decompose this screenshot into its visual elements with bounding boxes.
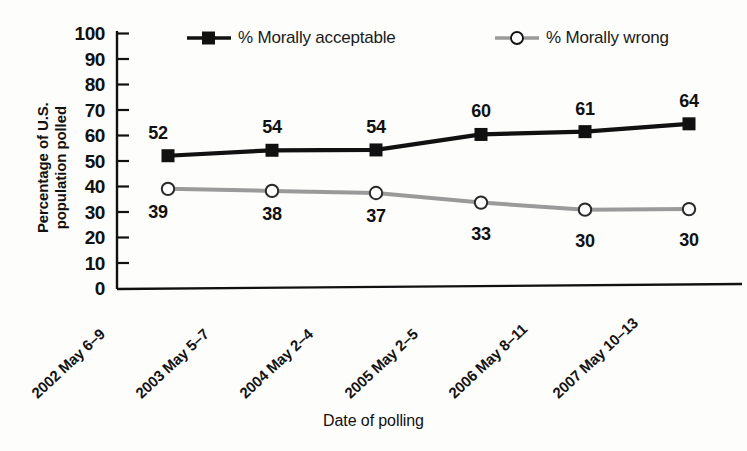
data-point-marker-circle[interactable] <box>370 187 382 199</box>
legend-item-morally-acceptable[interactable]: % Morally acceptable <box>186 28 396 48</box>
data-point-marker-circle[interactable] <box>162 183 174 195</box>
legend-label-morally-wrong: % Morally wrong <box>546 28 669 48</box>
series-morally-wrong <box>162 183 695 216</box>
value-label-acceptable-4: 61 <box>565 100 605 118</box>
open-circle-icon <box>494 29 540 47</box>
value-label-wrong-4: 30 <box>565 232 605 250</box>
data-point-marker-square[interactable] <box>683 117 696 130</box>
value-label-wrong-0: 39 <box>138 203 178 221</box>
series-line <box>168 124 689 156</box>
chart-page: Percentage of U.S. population polled 100… <box>0 0 747 451</box>
value-label-acceptable-3: 60 <box>461 102 501 120</box>
value-label-acceptable-1: 54 <box>252 118 292 136</box>
series-morally-acceptable <box>162 117 696 162</box>
data-point-marker-square[interactable] <box>475 128 488 141</box>
series-line <box>168 189 689 210</box>
data-point-marker-circle[interactable] <box>683 203 695 215</box>
value-label-wrong-5: 30 <box>669 231 709 249</box>
data-point-marker-circle[interactable] <box>475 196 487 208</box>
legend-label-morally-acceptable: % Morally acceptable <box>238 28 396 48</box>
value-label-wrong-3: 33 <box>461 225 501 243</box>
x-axis-title: Date of polling <box>0 412 747 430</box>
data-point-marker-circle[interactable] <box>266 185 278 197</box>
y-axis-ticks <box>117 34 129 264</box>
data-point-marker-square[interactable] <box>266 144 279 157</box>
data-point-marker-square[interactable] <box>370 143 383 156</box>
data-point-marker-square[interactable] <box>579 125 592 138</box>
axis-lines <box>117 31 742 289</box>
data-point-marker-circle[interactable] <box>579 203 591 215</box>
value-label-wrong-1: 38 <box>252 205 292 223</box>
filled-square-icon <box>186 29 232 47</box>
legend-item-morally-wrong[interactable]: % Morally wrong <box>494 28 669 48</box>
value-label-acceptable-5: 64 <box>669 92 709 110</box>
data-point-marker-square[interactable] <box>162 149 175 162</box>
value-label-acceptable-0: 52 <box>138 124 178 142</box>
value-label-acceptable-2: 54 <box>356 118 396 136</box>
value-label-wrong-2: 37 <box>356 207 396 225</box>
x-axis-line <box>117 284 742 289</box>
